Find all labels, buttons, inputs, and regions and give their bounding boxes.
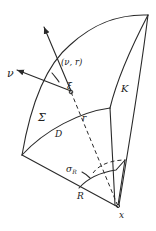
label-sigma: Σ [37, 111, 46, 124]
label-K: K [120, 83, 129, 94]
base-arc-D [22, 108, 110, 155]
sigma-R-leader [82, 172, 90, 178]
label-x: x [119, 210, 124, 220]
x-point [116, 204, 119, 207]
angle-arc [52, 73, 59, 82]
label-xi: ξ [67, 81, 73, 91]
label-nu: ν [7, 67, 14, 80]
K-left-edge [110, 15, 148, 108]
label-sigma-R: σR [66, 164, 77, 175]
bottom-edge [22, 155, 118, 207]
inner-vertical-edge [110, 108, 115, 205]
diagram-canvas: ν (ν, r) ξ Σ D r K σR R x [0, 0, 156, 231]
label-D: D [54, 129, 62, 139]
label-R: R [76, 191, 84, 201]
label-r: r [82, 113, 87, 123]
label-nu-r: (ν, r) [61, 57, 82, 67]
outer-arc-edge [22, 15, 148, 155]
